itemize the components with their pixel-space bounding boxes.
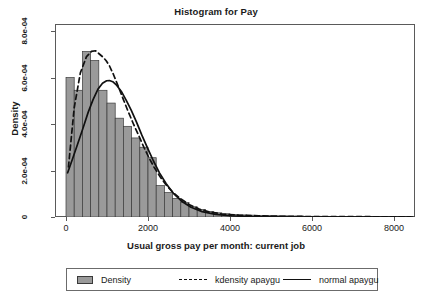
x-tick-label: 6000: [287, 223, 337, 233]
legend-swatch-icon: [77, 276, 93, 284]
y-tick-mark: [51, 124, 55, 125]
y-axis-label: Density: [9, 89, 20, 149]
y-tick-mark: [51, 217, 55, 218]
legend-item: kdensity apaygu: [179, 269, 280, 290]
histogram-bar: [164, 193, 172, 217]
histogram-bar: [91, 61, 99, 217]
legend-label: kdensity apaygu: [215, 275, 280, 285]
legend-label: Density: [101, 275, 131, 285]
x-tick-label: 4000: [205, 223, 255, 233]
y-tick-label: 8.0e-04: [19, 8, 31, 54]
chart-figure: Histogram for Pay Density 02.0e-044.0e-0…: [0, 0, 432, 301]
x-tick-label: 2000: [123, 223, 173, 233]
x-tick-mark: [148, 217, 149, 221]
histogram-bar: [173, 198, 181, 217]
histogram-bar: [115, 118, 123, 217]
legend-item: normal apaygu: [283, 269, 379, 290]
y-tick-label: 6.0e-04: [19, 55, 31, 101]
legend-solid-line-icon: [283, 279, 311, 280]
legend-item: Density: [77, 269, 131, 290]
x-tick-mark: [394, 217, 395, 221]
x-tick-mark: [66, 217, 67, 221]
x-tick-mark: [312, 217, 313, 221]
y-tick-label: 4.0e-04: [19, 101, 31, 147]
histogram-bar: [82, 51, 90, 217]
x-tick-label: 8000: [369, 223, 419, 233]
y-tick-label: 2.0e-04: [19, 148, 31, 194]
histogram-bar: [156, 186, 164, 217]
histogram-bars: [66, 51, 415, 217]
legend-label: normal apaygu: [319, 275, 379, 285]
x-tick-mark: [230, 217, 231, 221]
x-axis-label: Usual gross pay per month: current job: [0, 240, 432, 251]
histogram-bar: [140, 147, 148, 217]
histogram-bar: [148, 158, 156, 217]
chart-legend: Densitykdensity apaygunormal apaygu: [66, 268, 378, 291]
histogram-bar: [74, 90, 82, 217]
y-tick-label: 0: [19, 194, 31, 240]
histogram-bar: [132, 138, 140, 217]
chart-title: Histogram for Pay: [0, 6, 432, 17]
y-tick-mark: [51, 78, 55, 79]
y-tick-mark: [51, 171, 55, 172]
x-tick-label: 0: [41, 223, 91, 233]
legend-dashed-line-icon: [179, 279, 207, 280]
y-tick-mark: [51, 31, 55, 32]
histogram-bar: [123, 126, 131, 217]
histogram-bar: [107, 103, 115, 217]
histogram-bar: [99, 90, 107, 217]
plot-canvas: [55, 24, 415, 217]
